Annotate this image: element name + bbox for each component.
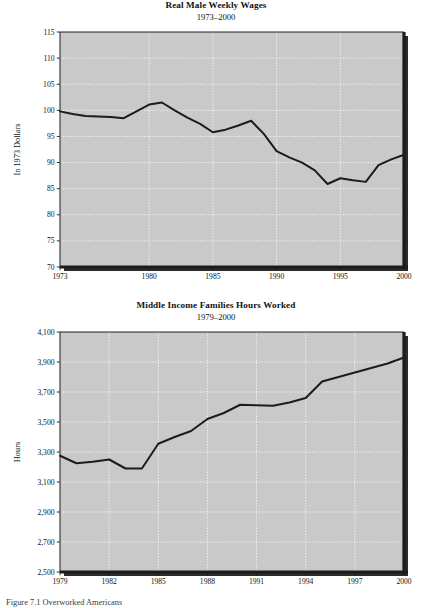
y-tick-label: 2,700 — [37, 537, 54, 546]
y-tick-label: 3,500 — [37, 417, 54, 426]
y-axis-label: In 1973 Dollars — [13, 123, 22, 175]
x-tick-label: 2000 — [396, 272, 411, 281]
y-tick-label: 75 — [47, 236, 55, 245]
chart-1-plot-area: 7075808590951001051101151973198019851990… — [0, 23, 432, 291]
plot-background — [60, 32, 404, 267]
x-tick-label: 1982 — [102, 577, 117, 586]
y-tick-label: 70 — [47, 262, 55, 271]
chart-1-subtitle: 1973–2000 — [0, 12, 432, 23]
plot-background — [60, 332, 404, 572]
x-tick-label: 1985 — [151, 577, 166, 586]
y-tick-label: 100 — [43, 105, 55, 114]
y-tick-label: 90 — [47, 158, 55, 167]
chart-2-title: Middle Income Families Hours Worked — [0, 300, 432, 312]
x-tick-label: 1980 — [142, 272, 157, 281]
chart-2-subtitle: 1979–2000 — [0, 312, 432, 323]
y-tick-label: 4,100 — [37, 327, 54, 336]
x-tick-label: 1997 — [347, 577, 362, 586]
y-tick-label: 95 — [47, 132, 55, 141]
y-tick-label: 80 — [47, 210, 55, 219]
chart-1-svg: 7075808590951001051101151973198019851990… — [0, 23, 432, 291]
x-tick-label: 1979 — [52, 577, 67, 586]
chart-2-svg: 2,5002,7002,9003,1003,3003,5003,7003,900… — [0, 323, 432, 595]
y-tick-label: 3,300 — [37, 447, 54, 456]
y-tick-label: 3,100 — [37, 477, 54, 486]
chart-figure-hours: Middle Income Families Hours Worked 1979… — [0, 300, 432, 600]
y-axis-label: Hours — [13, 441, 22, 461]
y-tick-label: 3,900 — [37, 357, 54, 366]
x-tick-label: 1973 — [52, 272, 67, 281]
y-tick-label: 2,900 — [37, 507, 54, 516]
x-tick-label: 1991 — [249, 577, 264, 586]
x-tick-label: 1985 — [205, 272, 220, 281]
y-tick-label: 115 — [43, 27, 54, 36]
chart-1-title: Real Male Weekly Wages — [0, 0, 432, 12]
y-tick-label: 85 — [47, 184, 55, 193]
x-tick-label: 1990 — [269, 272, 284, 281]
x-tick-label: 2000 — [396, 577, 411, 586]
y-tick-label: 105 — [43, 79, 55, 88]
x-tick-label: 1995 — [333, 272, 348, 281]
figure-caption: Figure 7.1 Overworked Americans — [6, 598, 122, 608]
y-tick-label: 3,700 — [37, 387, 54, 396]
chart-figure-wages: Real Male Weekly Wages 1973–2000 7075808… — [0, 0, 432, 296]
chart-2-plot-area: 2,5002,7002,9003,1003,3003,5003,7003,900… — [0, 323, 432, 595]
y-tick-label: 2,500 — [37, 567, 54, 576]
x-tick-label: 1988 — [200, 577, 215, 586]
x-tick-label: 1994 — [298, 577, 313, 586]
y-tick-label: 110 — [43, 53, 54, 62]
